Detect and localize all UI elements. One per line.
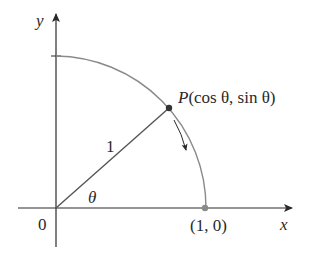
point-one-zero [202,205,208,211]
angle-label: θ [88,188,96,207]
x-axis-label: x [279,215,288,234]
point-end-label: (1, 0) [190,216,227,235]
point-p-label: P(cos θ, sin θ) [177,88,276,107]
y-axis-label: y [34,11,44,30]
point-p-coords: (cos θ, sin θ) [188,88,275,107]
radius-line [56,108,169,208]
unit-circle-diagram: y x 0 1 θ (1, 0) P(cos θ, sin θ) [0,0,317,259]
point-p [166,105,172,111]
origin-label: 0 [38,215,47,234]
radius-label: 1 [106,137,115,156]
unit-arc [56,56,206,208]
point-p-name: P [177,88,188,107]
clockwise-arrow-icon [174,120,186,150]
